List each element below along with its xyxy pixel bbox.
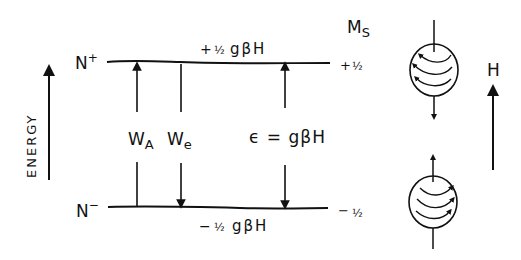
absorption-transition: WA (128, 66, 154, 206)
upper-population-label: N+ (75, 51, 98, 73)
energy-axis-label: ENERGY (24, 113, 39, 178)
svg-text:+: + (200, 41, 212, 57)
lower-population-label: N− (76, 198, 99, 221)
svg-text:−: − (199, 218, 211, 234)
svg-text:½: ½ (214, 221, 225, 234)
ms-header: MS (347, 17, 370, 40)
energy-gap-label: ϵ = gβH (249, 127, 326, 147)
lower-level: N− − ½ gβH − ½ (76, 198, 363, 235)
upper-ms-value: + ½ (340, 58, 363, 73)
upper-level: N+ + ½ gβH + ½ (75, 40, 363, 73)
svg-text:+: + (340, 58, 351, 73)
svg-text:gβH: gβH (230, 40, 266, 58)
spin-up-icon (409, 157, 457, 249)
svg-text:½: ½ (352, 60, 363, 73)
energy-level-diagram: ENERGY N+ + ½ gβH + ½ N− − ½ gβH − ½ W (0, 0, 521, 260)
emission-rate-label: We (167, 129, 192, 152)
energy-gap: ϵ = gβH (249, 66, 326, 205)
energy-axis: ENERGY (24, 70, 49, 180)
svg-text:½: ½ (214, 44, 225, 57)
lower-energy-label: − ½ gβH (199, 217, 268, 235)
field-label: H (487, 60, 500, 80)
upper-energy-label: + ½ gβH (200, 40, 266, 58)
spin-down-icon (410, 20, 458, 117)
upper-level-line (107, 61, 330, 63)
svg-text:−: − (338, 203, 349, 218)
magnetic-field: H (487, 60, 500, 170)
absorption-rate-label: WA (128, 129, 154, 152)
lower-level-line (108, 207, 328, 209)
svg-text:gβH: gβH (232, 217, 268, 235)
emission-transition: We (167, 64, 192, 204)
lower-ms-value: − ½ (338, 203, 363, 220)
svg-text:½: ½ (352, 207, 363, 220)
